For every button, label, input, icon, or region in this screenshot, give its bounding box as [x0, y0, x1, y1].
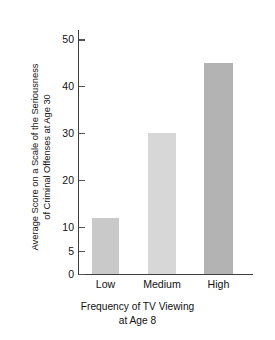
x-axis-title-line-2: at Age 8 — [0, 314, 275, 328]
y-tick-mark — [79, 180, 85, 181]
y-tick-mark — [79, 133, 85, 134]
bar-chart-figure: Average Score on a Scale of the Seriousn… — [0, 0, 275, 340]
y-axis-line — [78, 30, 79, 275]
x-axis-title-line-1: Frequency of TV Viewing — [0, 300, 275, 314]
x-axis-title: Frequency of TV Viewing at Age 8 — [0, 300, 275, 328]
y-tick-label: 0 — [68, 268, 74, 280]
y-tick-mark — [79, 39, 85, 40]
y-tick-mark — [79, 86, 85, 87]
x-tick-label-medium: Medium — [143, 278, 181, 290]
y-axis-title-line-1: Average Score on a Scale of the Seriousn… — [29, 64, 41, 251]
x-tick-label-low: Low — [96, 278, 115, 290]
y-tick-label: 50 — [62, 33, 74, 45]
x-tick-label-high: High — [208, 278, 230, 290]
bar-low — [92, 218, 119, 274]
y-tick-mark — [79, 251, 85, 252]
bar-medium — [148, 133, 176, 274]
y-tick-mark — [79, 274, 85, 275]
y-tick-label: 40 — [62, 80, 74, 92]
y-tick-label: 20 — [62, 174, 74, 186]
y-axis-title: Average Score on a Scale of the Seriousn… — [24, 26, 58, 288]
plot-area: 051020304050 LowMediumHigh — [78, 30, 253, 275]
y-tick-label: 10 — [62, 221, 74, 233]
y-tick-mark — [79, 227, 85, 228]
y-axis-title-line-2: of Criminal Offenses at Age 30 — [41, 94, 53, 219]
y-tick-label: 30 — [62, 127, 74, 139]
bar-high — [204, 63, 233, 274]
y-tick-label: 5 — [68, 245, 74, 257]
x-axis-line — [78, 274, 253, 275]
